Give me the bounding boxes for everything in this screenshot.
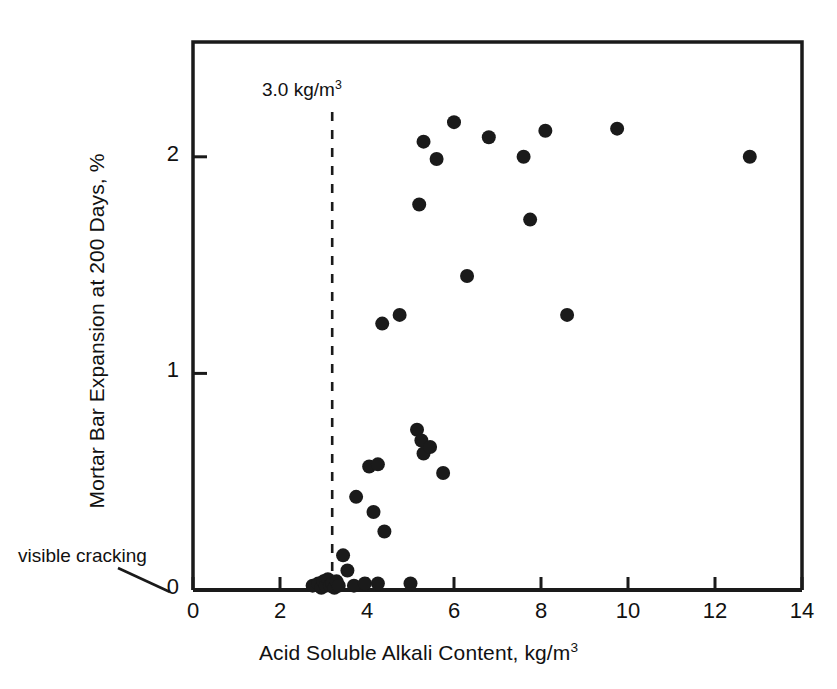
data-point bbox=[417, 135, 431, 149]
data-point bbox=[340, 564, 354, 578]
threshold-label-superscript: 3 bbox=[335, 78, 342, 92]
data-point bbox=[423, 440, 437, 454]
x-tick-label: 10 bbox=[608, 598, 648, 624]
x-tick-label: 0 bbox=[173, 598, 213, 624]
data-point bbox=[447, 115, 461, 129]
data-point bbox=[482, 130, 496, 144]
threshold-annotation-label: 3.0 kg/m3 bbox=[262, 78, 342, 101]
data-point bbox=[371, 457, 385, 471]
data-point-group bbox=[306, 115, 757, 595]
data-point bbox=[349, 490, 363, 504]
x-axis-title: Acid Soluble Alkali Content, kg/m3 bbox=[0, 640, 837, 665]
x-tick-label: 4 bbox=[347, 598, 387, 624]
x-axis-title-text: Acid Soluble Alkali Content, kg/m bbox=[259, 641, 570, 664]
data-point bbox=[743, 150, 757, 164]
y-tick-label: 0 bbox=[149, 574, 179, 600]
chart-figure: 02468101214 012 Acid Soluble Alkali Cont… bbox=[0, 0, 837, 689]
data-point bbox=[404, 577, 418, 591]
data-point bbox=[371, 577, 385, 591]
data-point bbox=[460, 269, 474, 283]
data-point bbox=[377, 525, 391, 539]
data-point bbox=[393, 308, 407, 322]
x-axis-title-superscript: 3 bbox=[570, 640, 578, 655]
data-point bbox=[523, 213, 537, 227]
data-point bbox=[358, 577, 372, 591]
data-point bbox=[375, 317, 389, 331]
data-point bbox=[412, 197, 426, 211]
x-tick-label: 8 bbox=[521, 598, 561, 624]
data-point bbox=[610, 122, 624, 136]
scatter-plot-canvas bbox=[0, 0, 837, 689]
plot-frame-border bbox=[193, 42, 802, 590]
y-axis-title-wrap: Mortar Bar Expansion at 200 Days, % bbox=[85, 81, 115, 581]
data-point bbox=[430, 152, 444, 166]
x-tick-label: 12 bbox=[695, 598, 735, 624]
axes-frame bbox=[193, 42, 802, 590]
x-tick-label: 2 bbox=[260, 598, 300, 624]
y-axis-title: Mortar Bar Expansion at 200 Days, % bbox=[85, 154, 109, 509]
data-point bbox=[517, 150, 531, 164]
data-point bbox=[538, 124, 552, 138]
visible-cracking-label: visible cracking bbox=[18, 545, 147, 567]
data-point bbox=[332, 579, 346, 593]
y-tick-label: 2 bbox=[149, 141, 179, 167]
y-axis-ticks bbox=[193, 157, 207, 590]
data-point bbox=[560, 308, 574, 322]
x-tick-label: 14 bbox=[782, 598, 822, 624]
threshold-label-text: 3.0 kg/m bbox=[262, 79, 335, 100]
data-point bbox=[367, 505, 381, 519]
y-tick-label: 1 bbox=[149, 357, 179, 383]
x-tick-label: 6 bbox=[434, 598, 474, 624]
data-point bbox=[336, 548, 350, 562]
data-point bbox=[436, 466, 450, 480]
